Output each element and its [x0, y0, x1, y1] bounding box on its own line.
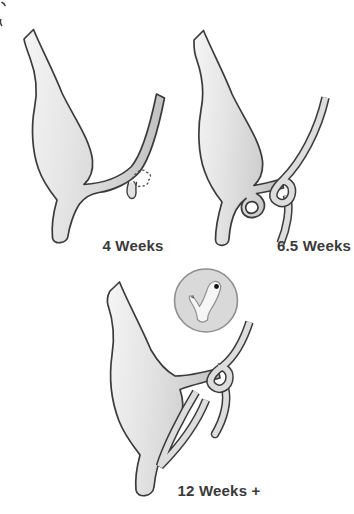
- gland-body-shape: [194, 31, 284, 246]
- embryo-development-illustration: [0, 0, 354, 514]
- stage-4-weeks-illustration: [24, 30, 165, 243]
- duct-hanging-end: [215, 388, 226, 434]
- development-stages-diagram: 4 Weeks 6.5 Weeks 12 Weeks +: [0, 0, 354, 514]
- duct-knot-strand: [273, 98, 325, 203]
- stage-6-5-weeks-illustration: [194, 31, 326, 246]
- gland-body-shape: [24, 30, 165, 243]
- duct-detail-inset: [175, 269, 238, 332]
- ventral-bud: [127, 183, 136, 199]
- scan-artifact-marks: [1, 3, 5, 26]
- stage-label-6-5-weeks: 6.5 Weeks: [277, 237, 351, 254]
- stage-label-4-weeks: 4 Weeks: [102, 237, 163, 254]
- papilla-dot: [214, 284, 219, 289]
- stage-label-12-weeks-plus: 12 Weeks +: [177, 482, 260, 499]
